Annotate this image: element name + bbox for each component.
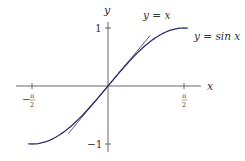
x-axis-label: x (207, 80, 214, 93)
identity-line (68, 36, 150, 134)
y-tick-label-neg-one: −1 (87, 138, 102, 150)
y-axis-label: y (103, 4, 111, 17)
svg-text:π: π (30, 92, 35, 100)
identity-line-label: y = x (142, 9, 170, 21)
svg-text:π: π (182, 92, 187, 100)
sine-curve-label: y = sin x (193, 30, 240, 42)
x-tick-label-half-pi: π 2 (182, 92, 188, 109)
svg-text:2: 2 (30, 101, 34, 109)
x-tick-label-neg-half-pi: − π 2 (22, 92, 36, 109)
y-tick-label-one: 1 (95, 22, 102, 34)
svg-text:2: 2 (182, 101, 186, 109)
sine-vs-identity-diagram: y x 1 −1 − π 2 π 2 y = x y = sin x (0, 0, 245, 161)
